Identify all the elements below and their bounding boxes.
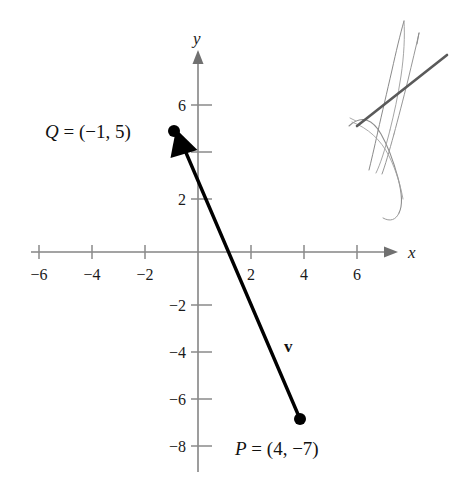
x-tick-label: −6 xyxy=(30,266,47,283)
vector-figure: −6 −4 −2 2 4 6 6 2 −2 −4 −6 −8 x xyxy=(0,0,449,486)
x-tick-label: −4 xyxy=(83,266,100,283)
y-tick-label: −6 xyxy=(169,391,186,408)
vector-shaft xyxy=(181,141,300,419)
y-tick-label: −2 xyxy=(169,297,186,314)
x-tick-label: −2 xyxy=(136,266,153,283)
x-tick-label: 2 xyxy=(247,266,255,283)
x-tick-label: 4 xyxy=(300,266,308,283)
x-axis-tick-labels: −6 −4 −2 2 4 6 xyxy=(30,266,361,283)
x-axis-label: x xyxy=(407,243,416,262)
y-tick-label: 2 xyxy=(178,191,186,208)
y-tick-label: −4 xyxy=(169,344,186,361)
point-label-p-symbol: P xyxy=(234,438,247,459)
vector-label: v xyxy=(284,337,293,356)
y-axis-arrowhead-icon xyxy=(193,50,204,64)
point-marker-p xyxy=(294,413,306,425)
point-label-p-coords: = (4, −7) xyxy=(247,438,319,460)
y-axis-ticks xyxy=(191,105,212,446)
x-axis-arrowhead-icon xyxy=(384,247,398,258)
decorative-sketch-icon xyxy=(349,21,447,220)
vector-v xyxy=(171,129,301,419)
point-label-q: Q = (−1, 5) xyxy=(45,121,131,143)
point-label-q-coords: = (−1, 5) xyxy=(59,121,131,143)
y-tick-label: −8 xyxy=(169,438,186,455)
x-tick-label: 6 xyxy=(353,266,361,283)
y-tick-label: 6 xyxy=(178,97,186,114)
point-marker-q xyxy=(168,125,180,137)
point-label-p: P = (4, −7) xyxy=(234,438,319,460)
figure-canvas: −6 −4 −2 2 4 6 6 2 −2 −4 −6 −8 x xyxy=(0,0,449,486)
axis-lines xyxy=(31,50,398,472)
point-label-q-symbol: Q xyxy=(45,121,59,142)
y-axis-label: y xyxy=(191,29,201,48)
